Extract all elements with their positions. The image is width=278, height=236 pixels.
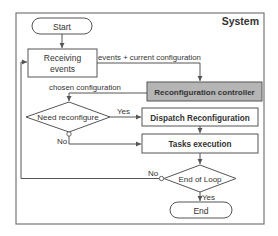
receiving-events-label-line2: events [50,64,75,74]
flowchart-diagram: System Start Receiving events events + c… [0,0,278,236]
loop-yes-label: Yes [202,193,215,202]
start-label: Start [53,22,72,32]
dispatch-reconfiguration-label: Dispatch Reconfiguration [150,114,250,123]
need-yes-label: Yes [117,107,130,116]
loop-no-connector [159,176,163,180]
tasks-execution-label: Tasks execution [168,140,231,149]
reconfiguration-controller-label: Reconfiguration controller [154,88,254,97]
receiving-events-label-line1: Receiving [44,53,82,63]
need-no-label: No [57,137,68,146]
loop-no-label: No [148,169,159,178]
need-no-connector [67,132,71,136]
system-label: System [222,15,259,27]
end-label: End [193,206,208,216]
events-current-config-label: events + current configuration [98,53,201,62]
need-reconfigure-label: Need reconfigure [37,113,99,122]
chosen-configuration-label: chosen configuration [49,83,121,92]
end-of-loop-label: End of Loop [178,175,222,184]
